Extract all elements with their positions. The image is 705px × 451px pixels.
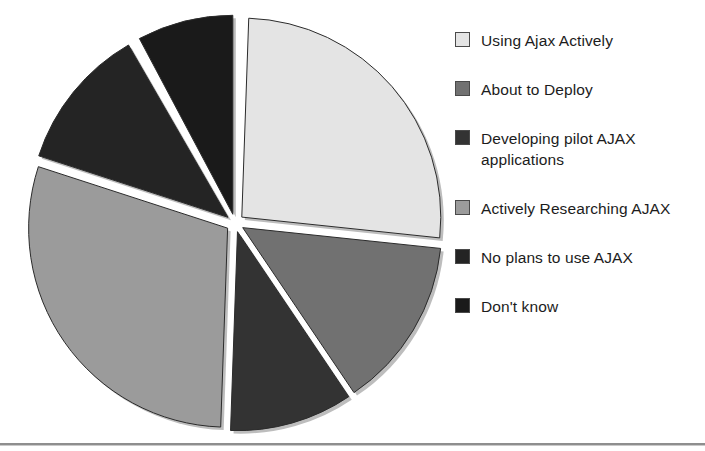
legend-swatch-icon (455, 32, 470, 47)
legend-label: No plans to use AJAX (481, 247, 633, 268)
legend-swatch-icon (455, 130, 470, 145)
legend-label: Developing pilot AJAX applications (481, 128, 696, 170)
legend-label: About to Deploy (481, 79, 593, 100)
pie-slice[interactable] (242, 18, 441, 238)
footer-divider-shadow (0, 445, 705, 446)
legend-swatch-icon (455, 298, 470, 313)
legend-label: Using Ajax Actively (481, 30, 613, 51)
pie-slice-group (29, 15, 444, 433)
chart-legend: Using Ajax Actively About to Deploy Deve… (455, 30, 705, 345)
legend-swatch-icon (455, 81, 470, 96)
pie-chart-plot-area (0, 0, 460, 445)
legend-item-actively-researching-ajax[interactable]: Actively Researching AJAX (455, 198, 705, 219)
pie-chart-figure: Using Ajax Actively About to Deploy Deve… (0, 0, 705, 451)
legend-swatch-icon (455, 200, 470, 215)
pie-chart-svg (0, 0, 460, 445)
legend-item-developing-pilot-ajax-applications[interactable]: Developing pilot AJAX applications (455, 128, 705, 170)
legend-item-no-plans-to-use-ajax[interactable]: No plans to use AJAX (455, 247, 705, 268)
legend-item-about-to-deploy[interactable]: About to Deploy (455, 79, 705, 100)
legend-item-dont-know[interactable]: Don't know (455, 296, 705, 317)
legend-label: Don't know (481, 296, 558, 317)
legend-item-using-ajax-actively[interactable]: Using Ajax Actively (455, 30, 705, 51)
legend-label: Actively Researching AJAX (481, 198, 670, 219)
legend-swatch-icon (455, 249, 470, 264)
